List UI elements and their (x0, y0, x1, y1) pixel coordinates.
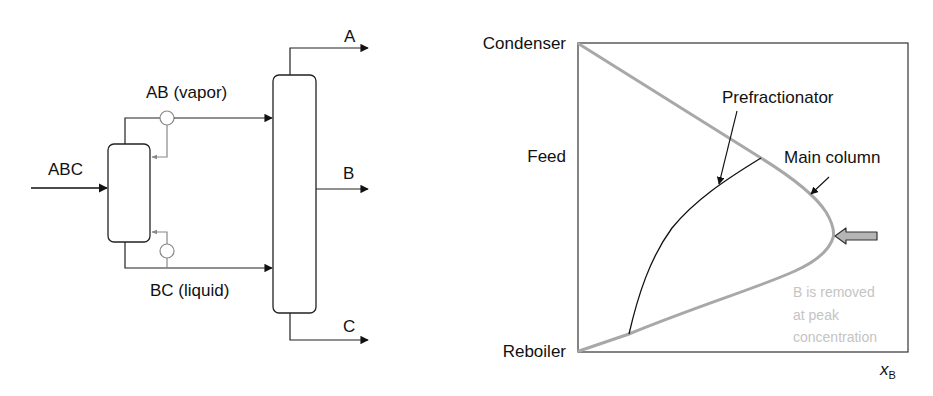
main-column-vessel (273, 75, 316, 313)
figure-canvas: ABC AB (vapor) BC (liquid) A B C Condens… (0, 0, 933, 396)
prefractionator-annotation: Prefractionator (722, 88, 834, 107)
outlet-b-label: B (343, 164, 354, 183)
prefractionator-vessel (108, 144, 150, 242)
y-label-condenser: Condenser (483, 34, 567, 53)
outlet-a-arrow (290, 48, 368, 75)
reboiler-valve-icon (160, 244, 174, 258)
composition-profile-plot: Condenser Feed Reboiler Prefractionator … (483, 34, 908, 381)
side-draw-arrow-icon (835, 228, 877, 244)
y-label-feed: Feed (527, 147, 566, 166)
y-label-reboiler: Reboiler (503, 342, 567, 361)
vapor-reflux-line (152, 125, 167, 157)
peak-note-line3: concentration (793, 329, 877, 345)
main-column-leader-arrow (811, 177, 829, 194)
flowsheet-diagram: ABC AB (vapor) BC (liquid) A B C (31, 27, 368, 340)
condenser-valve-icon (160, 111, 174, 125)
liquid-boilup-line (152, 232, 167, 244)
liquid-bottoms-line (125, 242, 272, 268)
x-axis-label-sub: B (889, 369, 896, 381)
peak-note-line2: at peak (793, 307, 840, 323)
feed-label: ABC (48, 160, 83, 179)
liquid-stream-label: BC (liquid) (150, 281, 229, 300)
x-axis-label: xB (879, 360, 896, 381)
main-column-annotation: Main column (784, 148, 880, 167)
vapor-overhead-line (125, 118, 160, 144)
prefractionator-leader-arrow (719, 111, 737, 184)
x-axis-label-main: x (879, 360, 889, 379)
outlet-a-label: A (344, 27, 356, 46)
peak-note-line1: B is removed (793, 284, 875, 300)
outlet-c-label: C (343, 317, 355, 336)
outlet-c-arrow (290, 313, 368, 340)
vapor-stream-label: AB (vapor) (146, 83, 227, 102)
